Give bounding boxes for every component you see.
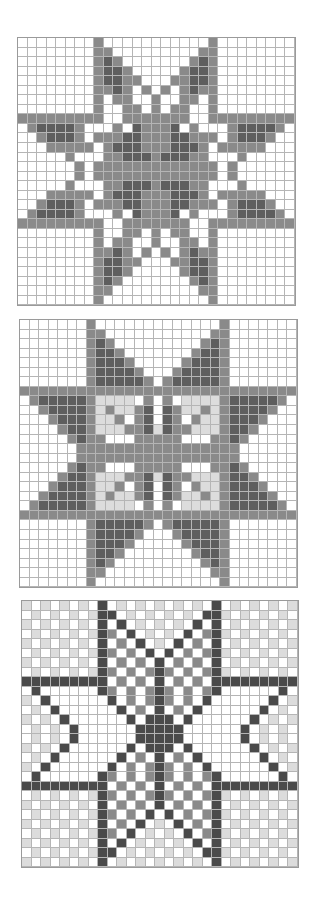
grid-cell — [49, 482, 59, 492]
grid-cell — [163, 425, 173, 435]
grid-cell — [98, 734, 108, 744]
grid-cell — [287, 444, 297, 454]
grid-cell — [142, 219, 152, 229]
grid-cell — [249, 368, 259, 378]
grid-cell — [47, 105, 57, 115]
grid-cell — [278, 358, 288, 368]
grid-cell — [203, 801, 213, 811]
grid-cell — [20, 568, 30, 578]
grid-cell — [211, 444, 221, 454]
grid-cell — [184, 801, 194, 811]
grid-cell — [249, 349, 259, 359]
grid-cell — [266, 95, 276, 105]
grid-cell — [41, 620, 51, 630]
grid-cell — [192, 530, 202, 540]
grid-cell — [257, 267, 267, 277]
grid-cell — [18, 143, 28, 153]
grid-cell — [142, 95, 152, 105]
grid-cell — [94, 172, 104, 182]
grid-cell — [199, 95, 209, 105]
grid-cell — [37, 143, 47, 153]
grid-cell — [152, 143, 162, 153]
grid-cell — [268, 349, 278, 359]
grid-cell — [41, 744, 51, 754]
grid-cell — [228, 229, 238, 239]
grid-cell — [259, 540, 269, 550]
grid-cell — [250, 839, 260, 849]
grid-cell — [41, 848, 51, 858]
grid-cell — [142, 133, 152, 143]
grid-cell — [259, 463, 269, 473]
grid-cell — [247, 277, 257, 287]
grid-cell — [240, 425, 250, 435]
grid-cell — [85, 133, 95, 143]
grid-cell — [155, 658, 165, 668]
grid-cell — [163, 368, 173, 378]
grid-cell — [49, 520, 59, 530]
grid-cell — [28, 143, 38, 153]
grid-cell — [85, 219, 95, 229]
grid-cell — [51, 611, 61, 621]
grid-cell — [238, 48, 248, 58]
grid-cell — [161, 277, 171, 287]
grid-cell — [228, 153, 238, 163]
grid-cell — [75, 67, 85, 77]
grid-cell — [228, 38, 238, 48]
grid-cell — [193, 820, 203, 830]
grid-cell — [171, 277, 181, 287]
grid-cell — [108, 725, 118, 735]
grid-cell — [220, 482, 230, 492]
grid-cell — [127, 820, 137, 830]
grid-cell — [79, 763, 89, 773]
grid-cell — [184, 620, 194, 630]
grid-cell — [268, 387, 278, 397]
grid-cell — [136, 829, 146, 839]
grid-cell — [190, 86, 200, 96]
grid-cell — [96, 406, 106, 416]
grid-cell — [174, 658, 184, 668]
grid-cell — [106, 368, 116, 378]
grid-cell — [260, 649, 270, 659]
grid-cell — [32, 668, 42, 678]
grid-cell — [222, 658, 232, 668]
grid-cell — [51, 668, 61, 678]
grid-cell — [173, 425, 183, 435]
grid-cell — [249, 568, 259, 578]
grid-cell — [37, 124, 47, 134]
grid-cell — [125, 396, 135, 406]
grid-cell — [250, 734, 260, 744]
grid-cell — [285, 105, 295, 115]
grid-cell — [218, 229, 228, 239]
grid-cell — [184, 848, 194, 858]
grid-cell — [192, 339, 202, 349]
grid-cell — [104, 267, 114, 277]
grid-cell — [171, 124, 181, 134]
grid-cell — [125, 530, 135, 540]
grid-cell — [47, 277, 57, 287]
grid-cell — [123, 48, 133, 58]
grid-cell — [238, 172, 248, 182]
grid-cell — [201, 339, 211, 349]
grid-cell — [228, 181, 238, 191]
grid-cell — [155, 734, 165, 744]
grid-cell — [22, 753, 32, 763]
grid-cell — [127, 801, 137, 811]
grid-cell — [199, 200, 209, 210]
grid-cell — [125, 435, 135, 445]
grid-cell — [173, 406, 183, 416]
grid-cell — [222, 791, 232, 801]
grid-cell — [155, 611, 165, 621]
grid-cell — [228, 114, 238, 124]
grid-cell — [276, 229, 286, 239]
grid-cell — [228, 86, 238, 96]
grid-cell — [266, 181, 276, 191]
grid-cell — [154, 339, 164, 349]
grid-cell — [285, 248, 295, 258]
grid-cell — [155, 696, 165, 706]
grid-cell — [56, 238, 66, 248]
grid-cell — [163, 511, 173, 521]
grid-cell — [94, 248, 104, 258]
grid-cell — [276, 181, 286, 191]
grid-cell — [184, 772, 194, 782]
grid-cell — [257, 38, 267, 48]
